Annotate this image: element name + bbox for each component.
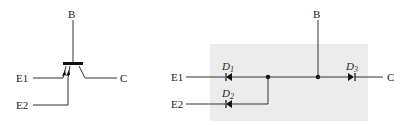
label-c-left: C <box>120 72 127 84</box>
label-e1-left: E1 <box>16 72 28 84</box>
label-b-right: B <box>313 8 320 20</box>
shaded-box <box>210 44 368 121</box>
label-b-left: B <box>68 8 75 20</box>
label-e1-right: E1 <box>171 71 183 83</box>
label-c-right: C <box>387 71 394 83</box>
label-e2-right: E2 <box>171 98 183 110</box>
diode-equivalent-circuit: B E1 E2 C D1 D2 D3 <box>171 8 394 121</box>
diagram-canvas: B E1 E2 C B E1 E2 C D1 D2 D3 <box>0 0 412 125</box>
base-bar <box>63 62 83 65</box>
label-e2-left: E2 <box>16 99 28 111</box>
emitter1-arrow-icon <box>62 70 66 76</box>
multi-emitter-transistor: B E1 E2 C <box>16 8 127 111</box>
collector-diag <box>79 66 85 78</box>
